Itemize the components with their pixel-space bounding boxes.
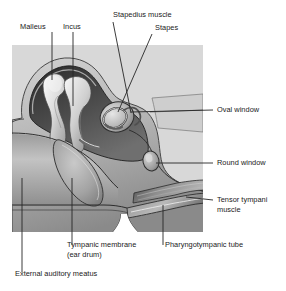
label-pharyngotympanic-tube: Pharyngotympanic tube	[165, 240, 243, 249]
label-stapes: Stapes	[155, 23, 178, 32]
malleus-head-highlight	[48, 76, 62, 92]
label-tympanic-membrane-line1: Tympanic membrane	[67, 240, 136, 249]
label-stapedius-muscle: Stapedius muscle	[113, 10, 172, 19]
petrous-bone-wedge	[152, 94, 203, 132]
label-external-auditory-meatus: External auditory meatus	[15, 269, 97, 278]
label-incus: Incus	[63, 22, 81, 31]
label-tensor-tympani-muscle-line1: Tensor tympani	[217, 195, 267, 204]
label-malleus: Malleus	[20, 22, 46, 31]
label-tympanic-membrane-line2: (ear drum)	[67, 250, 102, 259]
anatomy-illustration	[0, 0, 286, 291]
ear-anatomy-figure: Malleus Incus Stapedius muscle Stapes Ov…	[0, 0, 286, 291]
label-oval-window: Oval window	[217, 105, 259, 114]
label-tensor-tympani-muscle-line2: muscle	[217, 205, 241, 214]
label-round-window: Round window	[217, 158, 266, 167]
